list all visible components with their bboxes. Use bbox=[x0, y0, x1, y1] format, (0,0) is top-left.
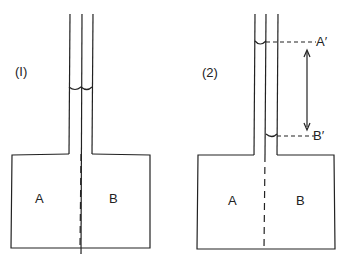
container-2 bbox=[197, 155, 335, 249]
meniscus-a bbox=[255, 41, 266, 44]
chamber-b-label: B bbox=[109, 191, 118, 206]
diagram-1 bbox=[11, 14, 150, 254]
osmosis-diagram bbox=[0, 0, 347, 259]
tube-divider bbox=[81, 14, 82, 254]
level-b-label: B′ bbox=[313, 128, 324, 143]
meniscus-b bbox=[266, 134, 277, 137]
tube-right-wall bbox=[277, 14, 278, 155]
tube-left-wall bbox=[254, 14, 255, 155]
membrane-2 bbox=[264, 155, 265, 249]
chamber-a-label: A bbox=[228, 193, 237, 208]
level-a-label: A′ bbox=[316, 34, 327, 49]
meniscus-1 bbox=[69, 87, 92, 90]
tube-right-wall bbox=[92, 14, 93, 154]
tube-left-wall bbox=[69, 14, 70, 154]
diagram-2-label: (2) bbox=[202, 65, 218, 80]
chamber-a-label: A bbox=[35, 191, 44, 206]
diagram-1-label: (I) bbox=[15, 64, 27, 79]
chamber-b-label: B bbox=[296, 193, 305, 208]
tube-divider bbox=[265, 14, 266, 155]
